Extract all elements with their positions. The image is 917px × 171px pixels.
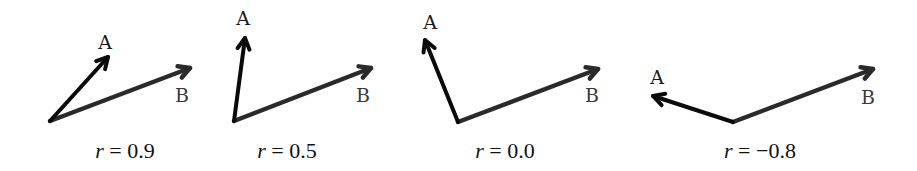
vector-b-label: B	[175, 86, 189, 105]
vector-b-arrow-icon	[234, 66, 371, 121]
vector-b-arrow-icon	[733, 67, 873, 122]
equals-sign: =	[484, 138, 507, 163]
vector-a-arrow-icon	[653, 94, 733, 122]
equals-sign: =	[104, 138, 127, 163]
vector-b-label: B	[585, 86, 599, 105]
correlation-caption: r = 0.9	[95, 140, 154, 162]
correlation-caption: r = 0.5	[257, 140, 316, 162]
vector-b-label: B	[861, 88, 875, 107]
r-value: 0.0	[507, 138, 535, 163]
vector-a-label: A	[423, 13, 437, 32]
equals-sign: =	[733, 138, 756, 163]
vector-a-label: A	[650, 68, 664, 87]
vector-a-arrow-icon	[424, 40, 458, 122]
vector-b-arrow-icon	[50, 66, 190, 121]
r-variable: r	[724, 138, 733, 163]
vector-b-arrow-icon	[458, 67, 598, 122]
r-variable: r	[257, 138, 266, 163]
correlation-caption: r = 0.0	[475, 140, 534, 162]
correlation-vector-figure: A B r = 0.9 A B r = 0.5 A B r = 0.0 A B …	[0, 0, 917, 171]
vector-a-arrow-icon	[234, 38, 250, 121]
equals-sign: =	[266, 138, 289, 163]
vector-a-label: A	[98, 33, 112, 52]
correlation-caption: r = −0.8	[724, 140, 796, 162]
r-value: 0.5	[289, 138, 317, 163]
r-value: −0.8	[756, 138, 796, 163]
vector-a-label: A	[236, 9, 250, 28]
vector-b-label: B	[356, 86, 370, 105]
r-variable: r	[475, 138, 484, 163]
r-value: 0.9	[127, 138, 155, 163]
r-variable: r	[95, 138, 104, 163]
